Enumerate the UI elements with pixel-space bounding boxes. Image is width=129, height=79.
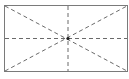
guide-diagram [0, 0, 129, 79]
center-point [66, 37, 69, 40]
